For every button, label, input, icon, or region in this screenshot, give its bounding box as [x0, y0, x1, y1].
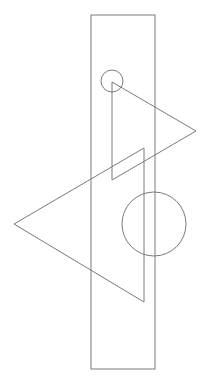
tall-rectangle [91, 15, 155, 369]
big-circle [122, 192, 186, 256]
diagram-canvas [0, 0, 208, 387]
right-pointing-triangle [112, 82, 196, 180]
left-pointing-triangle [14, 148, 144, 302]
